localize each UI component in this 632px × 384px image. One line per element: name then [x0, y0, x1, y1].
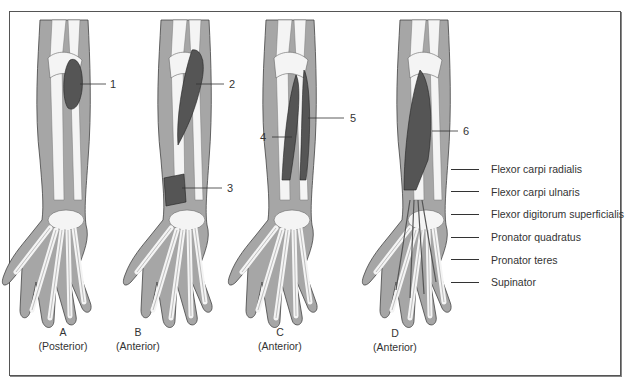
- callout-5: 5: [350, 112, 356, 124]
- legend-item: Flexor carpi radialis: [451, 158, 624, 181]
- panel-caption-c: C (Anterior): [240, 325, 320, 353]
- answer-line: [451, 259, 479, 260]
- muscle-pronator-quadratus: [164, 174, 186, 206]
- answer-line: [451, 282, 479, 283]
- answer-line: [451, 191, 479, 192]
- answer-line: [451, 169, 479, 170]
- panel-caption-b: B (Anterior): [98, 325, 178, 353]
- legend-item: Supinator: [451, 271, 624, 294]
- callout-1: 1: [110, 78, 116, 90]
- muscle-legend: Flexor carpi radialis Flexor carpi ulnar…: [451, 158, 624, 294]
- callout-3: 3: [227, 182, 233, 194]
- callout-6: 6: [463, 125, 469, 137]
- legend-item: Flexor digitorum superficialis: [451, 203, 624, 226]
- panel-caption-a: A (Posterior): [23, 325, 103, 353]
- callout-2: 2: [229, 78, 235, 90]
- panel-caption-d: D (Anterior): [355, 326, 435, 354]
- legend-item: Pronator quadratus: [451, 226, 624, 249]
- callout-4: 4: [260, 131, 266, 143]
- legend-item: Pronator teres: [451, 248, 624, 271]
- answer-line: [451, 214, 479, 215]
- answer-line: [451, 237, 479, 238]
- legend-item: Flexor carpi ulnaris: [451, 181, 624, 204]
